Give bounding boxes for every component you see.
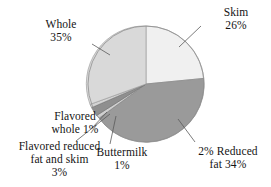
pie-label-whole: Whole 35% [26,18,96,44]
pie-label-reduced-fat: 2% Reduced fat 34% [186,145,270,171]
pie-label-buttermilk: Buttermilk 1% [83,146,161,172]
pie-label-skim: Skim 26% [205,6,267,32]
leader-line-skim [179,26,201,47]
pie-label-flavored-whole: Flavored whole 1% [32,110,118,136]
pie-slice-skim [146,26,204,84]
pie-chart-figure: Skim 26% Whole 35% 2% Reduced fat 34% Fl… [0,0,271,187]
